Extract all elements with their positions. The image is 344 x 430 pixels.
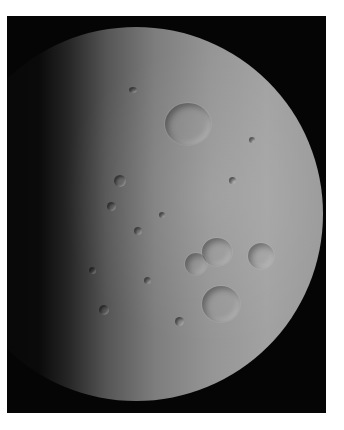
crater bbox=[89, 267, 96, 274]
crater bbox=[184, 252, 208, 276]
image-frame bbox=[7, 16, 326, 413]
crater bbox=[159, 212, 165, 218]
crater bbox=[107, 202, 116, 211]
crater bbox=[175, 317, 184, 326]
crater bbox=[249, 137, 255, 143]
crater bbox=[99, 305, 109, 315]
crater bbox=[247, 242, 275, 270]
crater bbox=[129, 87, 137, 93]
crater bbox=[134, 227, 142, 235]
moon-disk bbox=[7, 27, 323, 401]
crater bbox=[229, 177, 236, 184]
crater bbox=[164, 102, 212, 146]
crater bbox=[201, 285, 241, 323]
crater bbox=[144, 277, 151, 284]
crater bbox=[114, 175, 126, 187]
